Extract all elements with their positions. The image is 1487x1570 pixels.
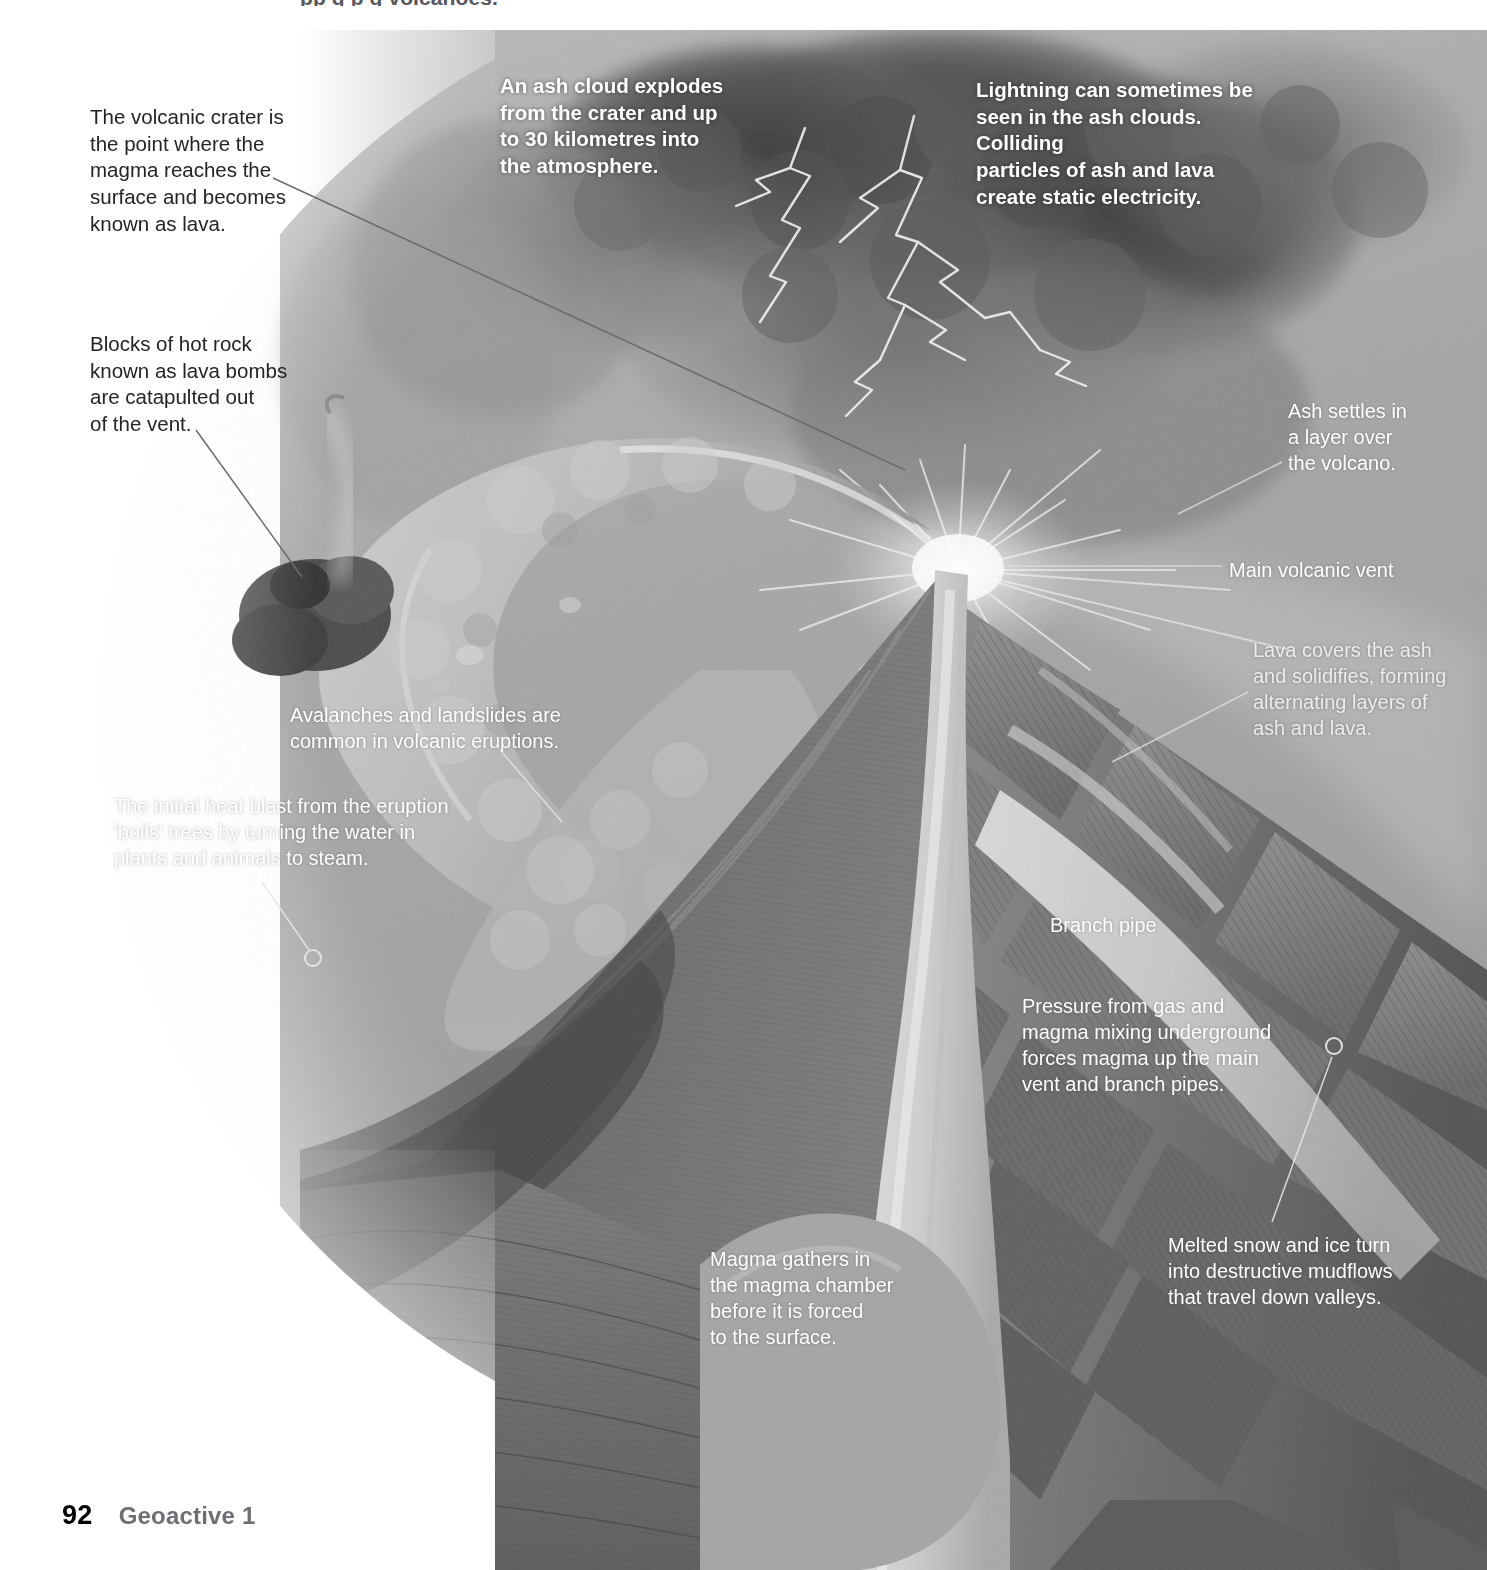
annotation-main-volcanic-vent: Main volcanic vent (1229, 557, 1469, 583)
running-header: pp g p g volcanoes. (300, 0, 1400, 6)
annotation-lightning: Lightning can sometimes be seen in the a… (976, 77, 1286, 210)
book-title: Geoactive 1 (119, 1502, 256, 1530)
textbook-page: pp g p g volcanoes. (0, 0, 1487, 1570)
annotation-mudflows: Melted snow and ice turn into destructiv… (1168, 1232, 1428, 1310)
annotation-volcanic-crater: The volcanic crater is the point where t… (90, 104, 305, 237)
annotation-lava-bombs: Blocks of hot rock known as lava bombs a… (90, 331, 305, 438)
annotation-ash-settles: Ash settles in a layer over the volcano. (1288, 398, 1478, 476)
page-number: 92 (62, 1500, 93, 1531)
annotation-avalanches: Avalanches and landslides are common in … (290, 702, 600, 754)
annotation-ash-cloud: An ash cloud explodes from the crater an… (500, 73, 740, 180)
annotation-branch-pipe: Branch pipe (1050, 912, 1240, 938)
annotation-magma-chamber: Magma gathers in the magma chamber befor… (710, 1246, 920, 1350)
page-footer: 92 Geoactive 1 (62, 1500, 256, 1531)
annotation-pressure: Pressure from gas and magma mixing under… (1022, 993, 1282, 1097)
annotation-lava-layers: Lava covers the ash and solidifies, form… (1253, 637, 1483, 741)
annotation-heat-blast: The initial heat blast from the eruption… (114, 793, 474, 871)
